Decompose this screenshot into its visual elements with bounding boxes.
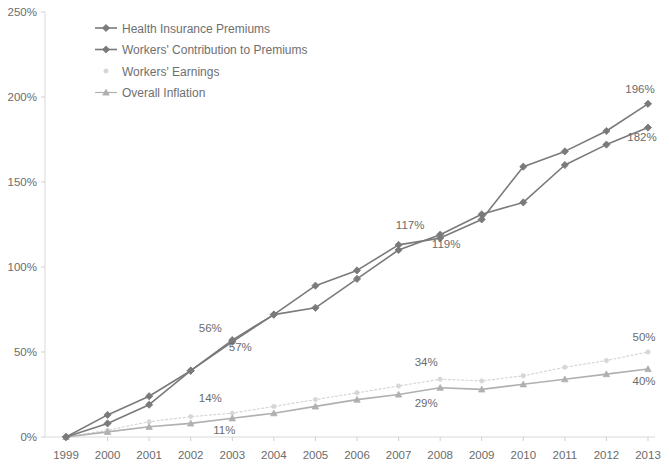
x-axis-tick-label: 2001 [136,449,162,461]
data-label: 57% [229,341,252,353]
data-point-marker [480,379,484,383]
data-point-marker [438,377,442,381]
y-axis-tick-label: 100% [8,261,37,273]
data-label: 182% [627,131,656,143]
y-axis-tick-label: 200% [8,91,37,103]
x-axis-tick-label: 2006 [344,449,370,461]
y-axis-tick-label: 250% [8,6,37,18]
x-axis-tick-label: 1999 [53,449,79,461]
data-point-marker [396,384,400,388]
x-axis-tick-label: 2000 [95,449,121,461]
x-axis-tick-label: 2010 [510,449,536,461]
data-label: 29% [415,397,438,409]
chart-container: 0%50%100%150%200%250% 199920002001200220… [0,0,669,474]
y-axis-tick-label: 150% [8,176,37,188]
x-axis-tick-label: 2011 [552,449,577,461]
data-label: 117% [396,219,425,231]
data-label: 40% [632,375,655,387]
x-axis-tick-label: 2004 [261,449,287,461]
legend-item-health-insurance-premiums[interactable]: Health Insurance Premiums [95,22,270,36]
x-axis-tick-label: 2007 [386,449,412,461]
data-label: 34% [415,356,438,368]
y-axis-tick-label: 50% [14,346,37,358]
data-point-marker [521,374,525,378]
data-label: 14% [199,392,222,404]
data-label: 50% [632,331,655,343]
x-axis-tick-label: 2005 [303,449,329,461]
legend-label: Workers' Earnings [122,65,219,79]
x-axis-tick-label: 2009 [469,449,495,461]
x-axis-tick-label: 2002 [178,449,204,461]
data-label: 56% [199,322,222,334]
data-point-marker [563,365,567,369]
x-axis-tick-label: 2012 [594,449,620,461]
y-axis-tick-label: 0% [20,431,37,443]
legend-label: Health Insurance Premiums [122,22,270,36]
data-label: 11% [213,424,235,436]
x-axis-tick-label: 2008 [427,449,453,461]
legend-label: Overall Inflation [122,86,205,100]
data-point-marker [355,391,359,395]
legend-item-workers-earnings[interactable]: Workers' Earnings [104,65,220,79]
data-point-marker [189,414,193,418]
x-axis-tick-label: 2003 [219,449,245,461]
data-label: 196% [625,83,654,95]
legend-item-workers-contribution-to-premiums[interactable]: Workers' Contribution to Premiums [95,43,307,57]
legend-label: Workers' Contribution to Premiums [122,43,307,57]
data-point-marker [646,350,650,354]
data-point-marker [313,397,317,401]
data-point-marker [104,69,108,73]
data-point-marker [272,404,276,408]
data-label: 119% [432,238,461,250]
line-chart: 0%50%100%150%200%250% 199920002001200220… [0,0,669,474]
data-point-marker [604,358,608,362]
x-axis-tick-label: 2013 [635,449,661,461]
